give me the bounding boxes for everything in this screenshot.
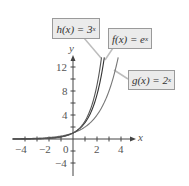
y-tick-label: 8 (62, 85, 68, 97)
x-tick-label: −2 (39, 143, 51, 155)
label-f: f(x) = ex (108, 28, 152, 49)
h-leader-line (84, 38, 101, 58)
label-h-exponent: x (93, 25, 96, 33)
label-g: g(x) = 2x (128, 70, 175, 90)
x-axis-arrow-icon (130, 137, 136, 142)
x-tick-label: 2 (94, 143, 100, 155)
label-h: h(x) = 3x (52, 18, 100, 39)
g-leader-line (114, 70, 128, 79)
x-tick-label: −4 (15, 143, 27, 155)
y-tick-label: −4 (55, 157, 67, 169)
f-leader-line (105, 48, 113, 60)
y-tick-label: 4 (62, 109, 68, 121)
x-tick-label: 4 (118, 143, 124, 155)
label-g-text: g(x) = 2 (132, 74, 168, 86)
label-f-exponent: x (145, 35, 148, 43)
y-axis-arrow-icon (71, 55, 76, 61)
y-tick-label: 12 (56, 61, 67, 73)
label-g-exponent: x (168, 76, 171, 84)
label-f-text: f(x) = e (112, 33, 145, 45)
y-axis-label: y (69, 42, 74, 54)
x-axis-label: x (138, 131, 143, 143)
label-h-text: h(x) = 3 (56, 23, 92, 35)
x-tick-label: 0 (63, 143, 69, 155)
